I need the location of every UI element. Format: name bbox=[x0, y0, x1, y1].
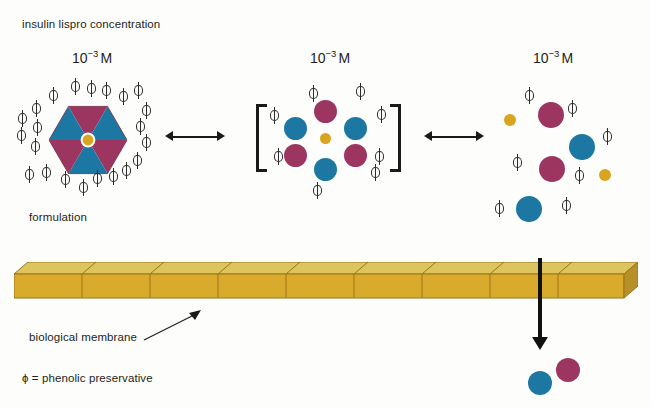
concentration-label-hexamer: 10−3M bbox=[54, 48, 130, 66]
membrane-label: biological membrane bbox=[29, 331, 137, 343]
conc-unit-2: M bbox=[338, 50, 350, 66]
zinc-ion-icon bbox=[599, 169, 611, 181]
phi-icon bbox=[574, 167, 585, 184]
phi-icon bbox=[376, 106, 387, 123]
phi-icon bbox=[141, 102, 152, 119]
state-bracketed-group bbox=[252, 82, 412, 204]
phi-icon bbox=[78, 179, 89, 196]
insulin-monomer-blue bbox=[314, 158, 337, 181]
phi-icon bbox=[32, 119, 43, 136]
insulin-monomer-blue bbox=[284, 117, 307, 140]
phi-icon bbox=[273, 148, 284, 165]
phi-icon bbox=[86, 80, 97, 97]
insulin-monomer-magenta bbox=[344, 144, 367, 167]
phi-icon bbox=[370, 164, 381, 181]
bracket-right-icon bbox=[390, 104, 401, 172]
phi-icon bbox=[30, 138, 41, 155]
state-hexamer-group bbox=[8, 78, 168, 204]
bracket-left-icon bbox=[256, 104, 267, 172]
phi-icon bbox=[24, 166, 35, 183]
phi-icon bbox=[374, 148, 385, 165]
conc-exponent-1: −3 bbox=[88, 48, 99, 59]
phi-icon bbox=[31, 100, 42, 117]
conc-mantissa-3: 10 bbox=[533, 50, 549, 66]
phi-icon bbox=[135, 118, 146, 135]
equilibrium-arrow-1 bbox=[165, 131, 225, 143]
phi-icon bbox=[494, 200, 505, 217]
membrane-pointer-arrow bbox=[143, 308, 205, 342]
phi-icon bbox=[308, 85, 319, 102]
concentration-label-monomers: 10−3M bbox=[515, 48, 591, 66]
phi-icon bbox=[312, 182, 323, 199]
conc-mantissa-1: 10 bbox=[72, 50, 88, 66]
phi-icon bbox=[48, 87, 59, 104]
insulin-monomer-magenta bbox=[284, 144, 307, 167]
transport-arrow bbox=[532, 258, 548, 350]
zinc-ion-icon bbox=[504, 114, 516, 126]
equilibrium-arrow-2 bbox=[424, 131, 484, 143]
conc-exponent-2: −3 bbox=[326, 48, 337, 59]
phi-icon bbox=[269, 107, 280, 124]
phi-icon bbox=[355, 83, 366, 100]
conc-exponent-3: −3 bbox=[549, 48, 560, 59]
state-monomers-group bbox=[496, 82, 646, 206]
phi-icon bbox=[70, 78, 81, 95]
phi-icon bbox=[101, 82, 112, 99]
conc-mantissa-2: 10 bbox=[310, 50, 326, 66]
phi-icon bbox=[602, 128, 613, 145]
absorbed-monomer-blue bbox=[528, 371, 552, 395]
legend-phenolic-preservative: ϕ = phenolic preservative bbox=[22, 372, 153, 384]
phi-icon bbox=[132, 152, 143, 169]
insulin-monomer-blue bbox=[344, 117, 367, 140]
insulin-monomer-blue bbox=[516, 196, 542, 222]
zinc-ion-icon bbox=[320, 133, 331, 144]
insulin-monomer-magenta bbox=[539, 156, 565, 182]
phi-icon bbox=[141, 134, 152, 151]
insulin-monomer-magenta bbox=[538, 102, 564, 128]
figure-canvas: insulin lispro concentration 10−3M 10−3M… bbox=[0, 0, 651, 407]
phi-icon bbox=[133, 82, 144, 99]
phi-icon bbox=[561, 197, 572, 214]
insulin-monomer-magenta bbox=[314, 100, 337, 123]
phi-icon bbox=[512, 154, 523, 171]
conc-unit-3: M bbox=[561, 50, 573, 66]
phi-icon bbox=[118, 88, 129, 105]
absorbed-monomer-magenta bbox=[556, 358, 580, 382]
insulin-hexamer-icon bbox=[49, 104, 127, 176]
conc-unit-1: M bbox=[100, 50, 112, 66]
formulation-label: formulation bbox=[29, 211, 87, 223]
phi-icon bbox=[16, 127, 27, 144]
concentration-label-bracketed: 10−3M bbox=[292, 48, 368, 66]
insulin-monomer-blue bbox=[569, 134, 595, 160]
phi-icon bbox=[524, 87, 535, 104]
phi-icon bbox=[17, 110, 28, 127]
figure-title: insulin lispro concentration bbox=[22, 18, 160, 30]
phi-icon bbox=[567, 100, 578, 117]
